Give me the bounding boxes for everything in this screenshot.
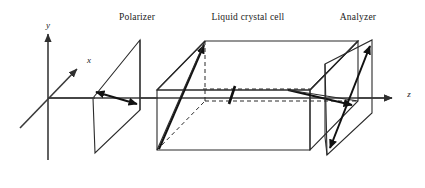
cell-entry-director-arrow bbox=[159, 45, 204, 149]
liquid-crystal-cell-box bbox=[157, 41, 358, 150]
coordinate-axes bbox=[20, 34, 77, 160]
polarizer-label: Polarizer bbox=[119, 12, 156, 22]
cell-hidden-bottom-left-diagonal bbox=[157, 101, 205, 150]
cell-entry-director-guide-2 bbox=[157, 41, 205, 150]
cell-exit-director-guide bbox=[288, 90, 358, 101]
cell-exit-director-guide-2 bbox=[310, 41, 358, 90]
liquid-crystal-cell-label: Liquid crystal cell bbox=[212, 12, 285, 22]
cell-entry-director-guide bbox=[157, 41, 205, 90]
polarizer-plate-outline bbox=[93, 40, 140, 153]
analyzer-label: Analyzer bbox=[340, 12, 377, 22]
polarizer-plate bbox=[93, 40, 140, 153]
x-axis-label: x bbox=[86, 55, 91, 65]
y-axis-label: y bbox=[45, 20, 50, 30]
z-axis-label: z bbox=[406, 89, 411, 99]
lcd-twisted-nematic-figure: Polarizer Liquid crystal cell Analyzer y… bbox=[0, 0, 425, 188]
figure-canvas: Polarizer Liquid crystal cell Analyzer y… bbox=[0, 0, 425, 188]
